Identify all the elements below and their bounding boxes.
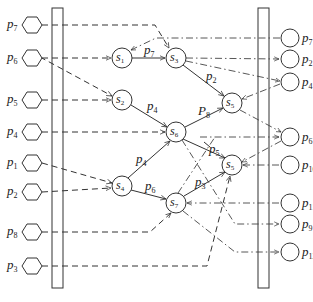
node-s6: s6 [166, 122, 186, 142]
svg-text:p11: p11 [301, 195, 313, 212]
svg-text:p5: p5 [6, 91, 18, 108]
hexagon-icon [22, 17, 42, 33]
svg-text:p10: p10 [301, 157, 313, 174]
input-dashed-lines [40, 25, 230, 266]
edge-label-s1-s3: p7 [143, 42, 155, 59]
input-place-3: p5 [6, 91, 42, 108]
input-place-6: p2 [6, 183, 42, 200]
output-place-7: p9 [281, 215, 313, 233]
circle-icon [281, 29, 299, 47]
svg-text:p2: p2 [301, 51, 313, 68]
hexagon-icon [22, 50, 42, 66]
output-place-5: p10 [281, 156, 313, 174]
node-s3: s3 [166, 48, 186, 68]
edge-label-s6-s5b: p5 [208, 141, 220, 158]
circle-icon [281, 194, 299, 212]
circle-icon [281, 50, 299, 68]
edge-s4-s6 [128, 141, 170, 178]
process-flow-diagram: p7 p2 p4 P8 p4 p6 p5 p3 p7 p6 p5 p4 p1 [0, 0, 313, 302]
output-place-1: p7 [281, 29, 313, 47]
node-s1: s1 [112, 48, 132, 68]
input-place-7: p8 [6, 223, 42, 240]
svg-text:p7: p7 [6, 16, 18, 33]
node-s2: s2 [112, 90, 132, 110]
svg-text:p12: p12 [301, 244, 313, 261]
hexagon-icon [22, 124, 42, 140]
svg-text:p4: p4 [6, 123, 18, 140]
output-place-8: p12 [281, 243, 313, 261]
input-places: p7 p6 p5 p4 p1 p2 p8 p3 [6, 16, 42, 274]
input-place-2: p6 [6, 49, 42, 66]
svg-text:p6: p6 [301, 129, 313, 146]
svg-text:p3: p3 [6, 257, 18, 274]
node-s4: s4 [112, 176, 132, 196]
circle-icon [281, 243, 299, 261]
input-place-5: p1 [6, 154, 42, 171]
svg-text:p7: p7 [301, 30, 313, 47]
edge-label-s7-s5b: p3 [194, 174, 206, 191]
svg-text:p6: p6 [6, 49, 18, 66]
input-place-8: p3 [6, 257, 42, 274]
svg-text:p4: p4 [301, 74, 313, 91]
output-place-3: p4 [281, 73, 313, 91]
hexagon-icon [22, 224, 42, 240]
hexagon-icon [22, 155, 42, 171]
input-place-4: p4 [6, 123, 42, 140]
output-place-2: p2 [281, 50, 313, 68]
edge-label-s3-s5: p2 [205, 68, 217, 85]
input-place-1: p7 [6, 16, 42, 33]
hexagon-icon [22, 184, 42, 200]
node-s7: s7 [166, 193, 186, 213]
circle-icon [281, 156, 299, 174]
output-places: p7 p2 p4 p6 p10 p11 p9 p12 [281, 29, 313, 261]
circle-icon [281, 215, 299, 233]
hexagon-icon [22, 258, 42, 274]
hexagon-icon [22, 92, 42, 108]
edge-label-s4-s6: p4 [135, 151, 147, 168]
node-s5-upper: s5 [222, 93, 242, 113]
edge-label-s2-s6: p4 [146, 98, 158, 115]
left-bus-bar [52, 8, 63, 288]
svg-text:p9: p9 [301, 216, 313, 233]
svg-text:p8: p8 [6, 223, 18, 240]
edge-label-s6-s5: P8 [197, 103, 210, 120]
service-nodes: s1 s2 s3 s6 s5 s4 s7 s5 [112, 48, 242, 213]
input-line-p6-s2 [40, 57, 112, 96]
edge-label-s4-s7: p6 [144, 178, 156, 195]
circle-icon [281, 128, 299, 146]
circle-icon [281, 73, 299, 91]
output-place-6: p11 [281, 194, 313, 212]
svg-text:p2: p2 [6, 183, 18, 200]
svg-text:p1: p1 [6, 154, 18, 171]
node-s5-lower: s5 [222, 155, 242, 175]
output-place-4: p6 [281, 128, 313, 146]
edge-s3-s5 [183, 65, 224, 96]
